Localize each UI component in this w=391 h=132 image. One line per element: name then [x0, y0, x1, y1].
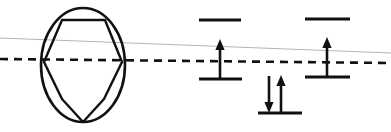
figure-canvas	[0, 0, 391, 132]
thin-sloped-guide-line	[0, 38, 391, 53]
right-up-arrow	[322, 37, 331, 77]
middle-down-arrow	[264, 76, 273, 113]
energy-level-figure	[0, 0, 391, 132]
fermi-dashed-line	[0, 59, 391, 63]
hexagon-in-circle-group	[41, 8, 125, 122]
left-up-arrow	[215, 39, 224, 79]
outer-circle	[41, 8, 125, 122]
middle-up-arrow	[276, 75, 285, 112]
